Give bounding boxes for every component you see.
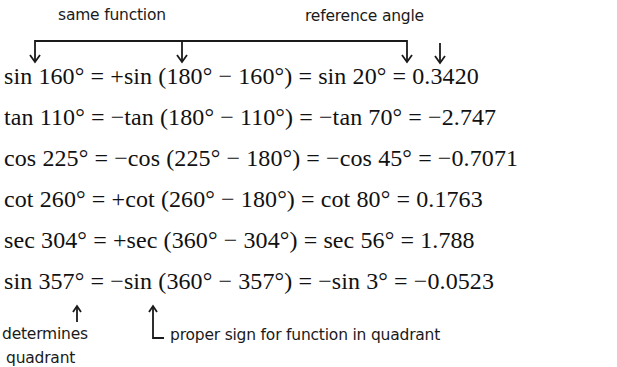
- quadrant-label: quadrant: [6, 349, 75, 367]
- equation-row: tan 110° = −tan (180° − 110°) = −tan 70°…: [4, 104, 496, 131]
- equation-row: cos 225° = −cos (225° − 180°) = −cos 45°…: [4, 145, 518, 172]
- proper-sign-arrow: [153, 307, 164, 338]
- equation-row: sin 357° = −sin (360° − 357°) = −sin 3° …: [4, 268, 494, 295]
- equation-row: cot 260° = +cot (260° − 180°) = cot 80° …: [4, 186, 483, 213]
- proper-sign-label: proper sign for function in quadrant: [170, 326, 440, 344]
- determines-label: determines: [2, 325, 88, 343]
- equation-row: sec 304° = +sec (360° − 304°) = sec 56° …: [4, 227, 475, 254]
- equation-row: sin 160° = +sin (180° − 160°) = sin 20° …: [4, 63, 479, 90]
- same-function-bracket: [35, 41, 407, 62]
